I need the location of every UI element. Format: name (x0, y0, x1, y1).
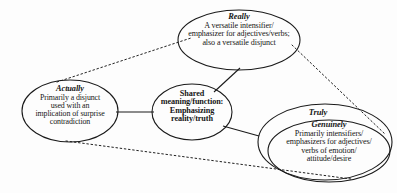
connector-shared-really (214, 68, 240, 92)
node-genuinely-line4: attitude/desire (268, 155, 390, 163)
concept-diagram: Really A versatile intensifier/ emphasiz… (0, 0, 397, 193)
node-shared: Shared meaning/function: Emphasizing rea… (151, 90, 233, 123)
node-actually-line4: contradiction (22, 118, 118, 126)
node-actually: Actually Primarily a disjunct used with … (22, 85, 118, 126)
node-shared-line4: reality/truth (151, 115, 233, 123)
node-really: Really A versatile intensifier/ emphasiz… (178, 13, 300, 47)
node-really-line3: also a versatile disjunct (178, 39, 300, 47)
node-genuinely: Genuinely Primarily intensifiers/ emphas… (268, 121, 390, 163)
node-truly-title: Truly (280, 108, 356, 117)
node-truly: Truly (280, 108, 356, 117)
connector-actually-really (57, 38, 191, 82)
connector-shared-truly (223, 126, 259, 136)
